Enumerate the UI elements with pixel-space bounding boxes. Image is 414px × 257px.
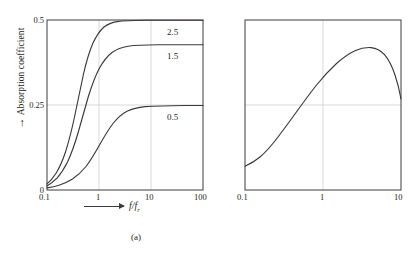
- x-tick-10: 10: [145, 192, 154, 202]
- panel-a: → Absorption coefficient 0.5 0.25 0 0.1 …: [0, 0, 210, 257]
- y-tick-0.25: 0.25: [8, 100, 44, 110]
- x-axis-label-a: f/fr: [84, 201, 140, 213]
- curve-label-2.5: 2.5: [167, 27, 178, 37]
- curve-1.5: [47, 45, 203, 186]
- x-tick-0.1: 0.1: [237, 192, 248, 202]
- x-axis-label-a-text: f/f: [129, 201, 137, 211]
- x-axis-label-a-sub: r: [137, 206, 140, 213]
- x-tick-10: 10: [394, 192, 403, 202]
- y-axis-arrow-icon: →: [14, 117, 26, 128]
- panel-b: 0.1 1 10 rs/ρ0c (b): [208, 0, 414, 257]
- x-tick-100: 100: [194, 192, 207, 202]
- panel-a-caption: (a): [131, 232, 141, 242]
- x-tick-1: 1: [320, 192, 324, 202]
- x-axis-arrow-icon-a: [84, 206, 124, 207]
- plot-a-svg: [0, 0, 210, 257]
- curve-label-1.5: 1.5: [167, 51, 178, 61]
- y-tick-0.5: 0.5: [14, 15, 44, 25]
- curve-label-0.5: 0.5: [167, 112, 178, 122]
- plot-b-svg: [208, 0, 414, 257]
- figure-container: → Absorption coefficient 0.5 0.25 0 0.1 …: [0, 0, 414, 257]
- curve-0.5: [47, 106, 203, 188]
- x-tick-0.1: 0.1: [39, 192, 50, 202]
